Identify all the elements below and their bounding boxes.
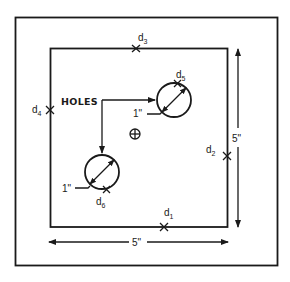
holes-label: HOLES bbox=[61, 96, 98, 107]
label-d6: d6 bbox=[96, 196, 106, 209]
height-dimension: 5" bbox=[232, 49, 242, 227]
hole-2-diameter-label: 1" bbox=[62, 183, 72, 194]
label-d1: d1 bbox=[164, 207, 174, 220]
label-d3: d3 bbox=[138, 32, 148, 45]
label-d2: d2 bbox=[206, 144, 216, 157]
width-dimension: 5" bbox=[49, 237, 228, 248]
hole-2: 1" d6 bbox=[62, 155, 119, 209]
plate-diagram: d3 d4 d2 d1 1" d5 1" d6 HOLES bbox=[0, 0, 290, 282]
centroid-crosshair-icon bbox=[130, 129, 140, 139]
hole-1-diameter-leader bbox=[147, 112, 162, 114]
height-dimension-label: 5" bbox=[232, 133, 242, 144]
hole-1: 1" d5 bbox=[133, 69, 191, 119]
label-d4: d4 bbox=[32, 104, 42, 117]
hole-1-diameter-label: 1" bbox=[133, 108, 143, 119]
width-dimension-label: 5" bbox=[132, 237, 142, 248]
hole-1-diameter-arrow bbox=[162, 88, 186, 112]
hole-2-diameter-leader bbox=[75, 186, 90, 188]
hole-2-diameter-arrow bbox=[90, 160, 114, 184]
label-d5: d5 bbox=[176, 69, 186, 82]
